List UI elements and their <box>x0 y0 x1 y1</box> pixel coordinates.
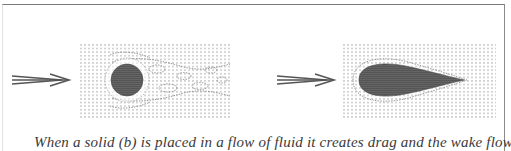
panel-teardrop <box>255 0 511 130</box>
cylinder-object <box>111 64 143 96</box>
panel-cylinder <box>0 0 255 130</box>
arrow-right-icon <box>277 74 334 86</box>
flow-field <box>78 43 231 118</box>
figure-caption: When a solid (b) is placed in a flow of … <box>34 134 504 151</box>
arrow-right-icon <box>12 74 69 86</box>
